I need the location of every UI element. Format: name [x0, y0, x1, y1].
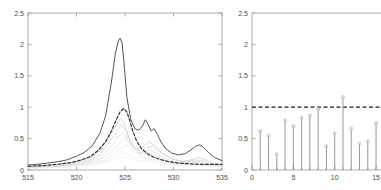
left-series-faint-ensemble-1 — [28, 119, 222, 167]
left-yticklabel: 2.5 — [14, 10, 24, 17]
right-xticklabel: 10 — [331, 174, 339, 181]
left-xticklabel: 525 — [119, 174, 131, 181]
right-yticklabel: 1 — [244, 104, 248, 111]
left-plot-svg: 51552052553053500.511.522.5 — [0, 0, 230, 190]
right-yticklabel: 2.5 — [238, 10, 248, 17]
right-xticklabel: 5 — [291, 174, 295, 181]
left-yticklabel: 2 — [20, 41, 24, 48]
left-yticklabel: 0 — [20, 167, 24, 174]
left-yticklabel: 1 — [20, 104, 24, 111]
left-yticklabel: 0.5 — [14, 135, 24, 142]
right-yticklabel: 2 — [244, 41, 248, 48]
left-plot-frame — [28, 13, 222, 170]
right-yticklabel: 0 — [244, 167, 248, 174]
left-yticklabel: 1.5 — [14, 72, 24, 79]
right-xticklabel: 15 — [372, 174, 380, 181]
right-plot-svg: 00.511.522.5051015 — [230, 0, 381, 190]
panel-right-stemplot: 00.511.522.5051015 — [230, 0, 381, 190]
left-xticklabel: 520 — [71, 174, 83, 181]
right-yticklabel: 0.5 — [238, 135, 248, 142]
left-xticklabel: 530 — [168, 174, 180, 181]
right-xticklabel: 0 — [250, 174, 254, 181]
right-yticklabel: 1.5 — [238, 72, 248, 79]
left-series-dashed-dark-reference — [28, 108, 222, 166]
figure-container: 51552052553053500.511.522.5 00.511.522.5… — [0, 0, 381, 190]
panel-left-spectrum: 51552052553053500.511.522.5 — [0, 0, 230, 190]
left-xticklabel: 515 — [22, 174, 34, 181]
left-xticklabel: 535 — [216, 174, 228, 181]
